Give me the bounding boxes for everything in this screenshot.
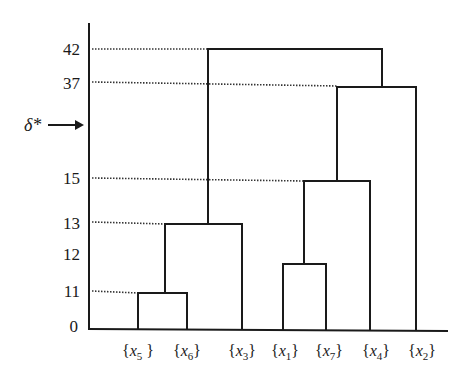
guide-lines — [92, 49, 337, 293]
merge-x2 — [337, 87, 416, 331]
tick-42: 42 — [63, 40, 80, 59]
merge-x5-x6 — [138, 293, 187, 329]
merge-x5x6-x3 — [165, 224, 242, 330]
leaf-x6: {x6} — [173, 342, 201, 362]
merge-x1-x7 — [283, 264, 326, 330]
leaf-x5: {x5 } — [122, 342, 154, 362]
arrow-right-icon — [75, 120, 84, 130]
leaf-x7: {x7} — [315, 342, 343, 362]
leaf-x4: {x4} — [362, 342, 390, 362]
tick-0: 0 — [70, 317, 79, 336]
tick-11: 11 — [64, 282, 80, 301]
y-tick-labels: 42 37 15 13 12 11 0 — [63, 40, 81, 336]
x-baseline — [89, 329, 448, 331]
leaf-labels: {x5 } {x6} {x3} {x1} {x7} {x4} {x2} — [122, 342, 436, 362]
tick-13: 13 — [63, 214, 80, 233]
leaf-x3: {x3} — [228, 342, 256, 362]
leaf-x2: {x2} — [408, 342, 436, 362]
merge-x1x7-x4 — [304, 181, 370, 330]
dendrogram: 42 37 15 13 12 11 0 δ* {x5 } — [0, 0, 470, 379]
merge-top — [208, 49, 382, 224]
delta-star-label: δ* — [24, 115, 41, 135]
tick-12: 12 — [63, 245, 80, 264]
tick-37: 37 — [63, 74, 81, 93]
leaf-x1: {x1} — [271, 342, 299, 362]
tick-15: 15 — [63, 169, 80, 188]
threshold-marker: δ* — [24, 115, 84, 135]
dendrogram-branches — [138, 49, 416, 331]
